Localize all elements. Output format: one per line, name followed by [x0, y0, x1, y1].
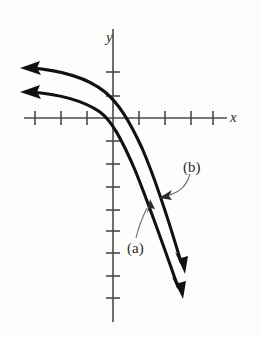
curve-b-callout — [159, 174, 190, 200]
curve-a-leader-line — [136, 208, 147, 238]
y-axis-label: y — [104, 29, 113, 45]
curve-a-path — [30, 92, 178, 287]
curve-b-label: (b) — [183, 159, 201, 176]
x-axis-label: x — [229, 109, 237, 125]
curve-a-down-arrowhead-icon — [172, 277, 186, 299]
curve-a-label: (a) — [127, 240, 144, 257]
graph-svg: x y (b) (a) — [0, 0, 260, 337]
curve-b-down-arrowhead-icon — [175, 252, 188, 274]
axes-group — [24, 29, 227, 322]
curve-a — [20, 85, 186, 299]
curve-b-leader-line — [170, 174, 190, 195]
exponential-graph-figure: x y (b) (a) — [0, 0, 260, 337]
